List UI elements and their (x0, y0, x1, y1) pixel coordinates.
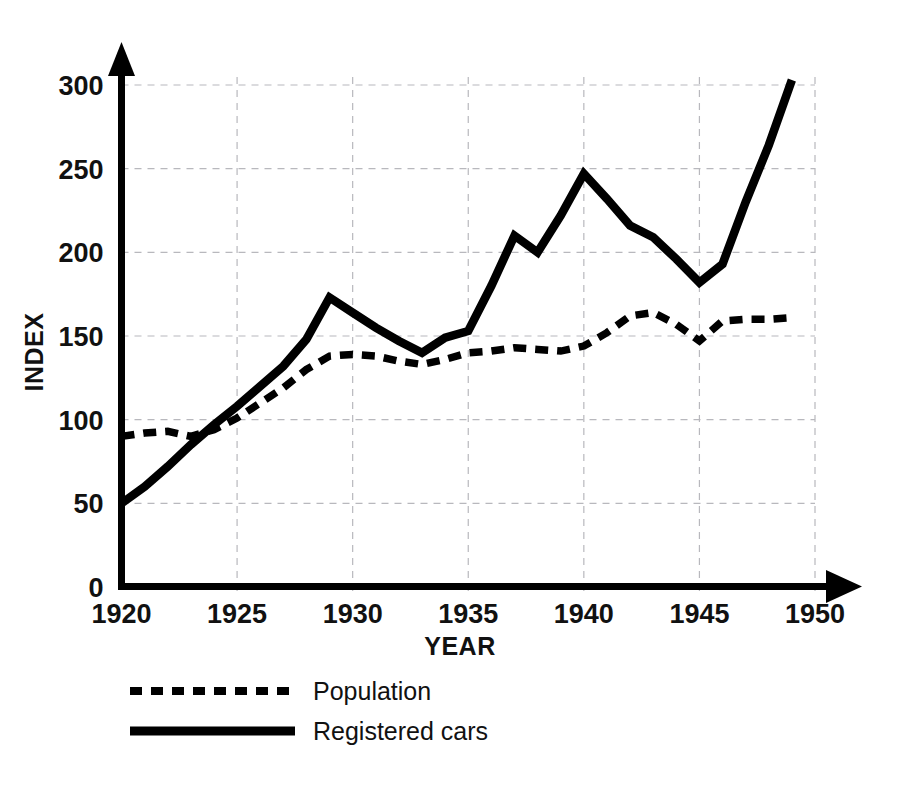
chart-canvas: 050100150200250300 192019251930193519401… (0, 0, 901, 789)
axis-lines (108, 42, 862, 603)
x-axis-title: YEAR (424, 632, 495, 660)
grid-lines (122, 77, 816, 597)
y-axis-arrowhead (108, 42, 135, 76)
y-tick-label: 50 (73, 489, 103, 519)
chart-legend: Population Registered cars (130, 677, 488, 745)
y-tick-label: 250 (58, 155, 103, 185)
y-axis-title: INDEX (20, 313, 48, 392)
x-tick-label: 1950 (785, 599, 845, 629)
x-tick-label: 1925 (207, 599, 267, 629)
y-tick-label: 150 (58, 322, 103, 352)
series-line-registered-cars (122, 80, 792, 503)
x-tick-label: 1930 (323, 599, 383, 629)
legend-label-registered-cars: Registered cars (313, 717, 488, 745)
x-tick-label: 1920 (91, 599, 151, 629)
y-axis-tick-labels: 050100150200250300 (58, 71, 103, 603)
x-tick-label: 1945 (669, 599, 729, 629)
x-tick-label: 1940 (554, 599, 614, 629)
x-axis-tick-labels: 1920192519301935194019451950 (91, 599, 845, 629)
y-tick-label: 300 (58, 71, 103, 101)
line-chart: 050100150200250300 192019251930193519401… (0, 0, 901, 789)
legend-label-population: Population (313, 677, 431, 705)
y-tick-label: 100 (58, 406, 103, 436)
y-tick-label: 200 (58, 238, 103, 268)
series-lines (122, 80, 792, 503)
x-tick-label: 1935 (438, 599, 498, 629)
